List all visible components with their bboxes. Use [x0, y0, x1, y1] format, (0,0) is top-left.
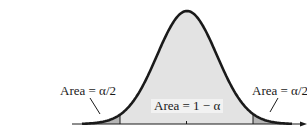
left-label-pointer — [90, 98, 100, 114]
normal-distribution-diagram: Area = α/2 Area = 1 − α Area = α/2 — [0, 0, 307, 127]
right-label-pointer — [270, 98, 278, 112]
right-tail-label: Area = α/2 — [252, 83, 307, 98]
axis-arrow-icon — [300, 122, 307, 127]
center-area-label: Area = 1 − α — [154, 98, 220, 113]
left-tail-label: Area = α/2 — [60, 83, 116, 98]
